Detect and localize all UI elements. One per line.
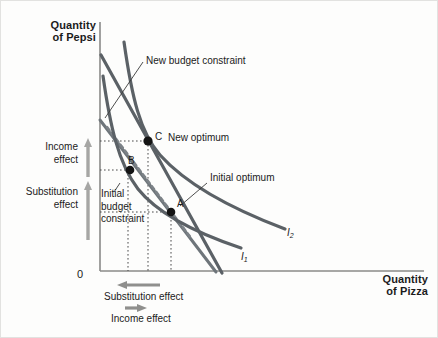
income-effect-bottom-label: Income effect bbox=[111, 313, 171, 324]
initial-budget-constraint-label: Initialbudgetconstraint bbox=[101, 188, 144, 226]
point-c-label: C bbox=[155, 131, 162, 142]
point-c-marker bbox=[143, 136, 152, 145]
income-effect-left-arrow bbox=[84, 138, 92, 177]
substitution-effect-left-arrow bbox=[84, 181, 92, 240]
indifference-curve-i2-label: I2 bbox=[287, 222, 294, 240]
point-a-label: A bbox=[177, 198, 184, 209]
point-b-label: B bbox=[128, 155, 135, 166]
y-axis-title: Quantityof Pepsi bbox=[40, 19, 96, 44]
x-axis-title: Quantityof Pizza bbox=[370, 273, 428, 298]
point-b-marker bbox=[126, 166, 135, 175]
new-budget-constraint-line bbox=[101, 55, 222, 273]
indifference-curve-i1-label: I1 bbox=[241, 246, 248, 264]
new-optimum-label: New optimum bbox=[168, 132, 229, 143]
income-effect-left-label: Incomeeffect bbox=[22, 141, 78, 166]
substitution-effect-bottom-label: Substitution effect bbox=[104, 291, 183, 302]
income-effect-bottom-arrow bbox=[125, 304, 147, 312]
origin-label: 0 bbox=[77, 268, 83, 280]
initial-optimum-leader-line bbox=[180, 183, 207, 206]
figure-container: Quantityof Pepsi Quantityof Pizza 0 New … bbox=[0, 0, 438, 338]
new-budget-constraint-label: New budget constraint bbox=[146, 55, 246, 66]
substitution-effect-left-label: Substitutioneffect bbox=[10, 186, 78, 211]
substitution-effect-bottom-arrow bbox=[117, 281, 160, 289]
initial-optimum-label: Initial optimum bbox=[210, 172, 274, 183]
point-a-marker bbox=[167, 208, 176, 217]
